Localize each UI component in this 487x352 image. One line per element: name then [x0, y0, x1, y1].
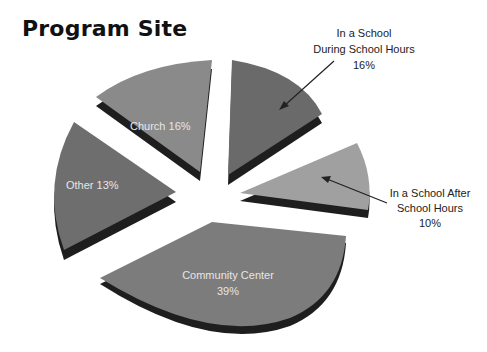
- label-after-3: 10%: [419, 217, 441, 229]
- label-during-3: 16%: [353, 59, 375, 71]
- label-other: Other 13%: [66, 179, 119, 191]
- label-community-center: Community Center: [182, 269, 274, 281]
- label-church: Church 16%: [130, 120, 191, 132]
- label-after-2: School Hours: [397, 202, 464, 214]
- label-during-1: In a School: [336, 27, 391, 39]
- label-after-1: In a School After: [390, 187, 471, 199]
- pie-chart: Church 16% Other 13% Community Center 39…: [0, 0, 487, 352]
- label-community-center-pct: 39%: [217, 285, 239, 297]
- label-during-2: During School Hours: [313, 43, 415, 55]
- slice-community-center: Community Center 39%: [100, 222, 346, 334]
